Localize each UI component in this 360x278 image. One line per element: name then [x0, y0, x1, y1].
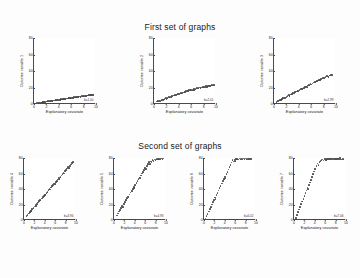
scatter-panel: Outcome variable 20204060800246810b=2.01… — [120, 38, 240, 130]
plot-area: 0204060800246810b=6.02Explanatory covari… — [203, 158, 255, 220]
y-axis-tick: 60 — [19, 172, 24, 176]
slope-annotation: b=6.02 — [244, 214, 254, 218]
data-point — [65, 169, 67, 171]
panel-group-first: Outcome variable 10204060800246810b=1.00… — [0, 38, 360, 130]
data-point — [125, 199, 127, 201]
plot-area: 0204060800246810b=2.99Explanatory covari… — [273, 38, 335, 104]
row-title-first: First set of graphs — [0, 22, 360, 32]
x-axis-tick: 4 — [134, 219, 136, 225]
data-point — [93, 94, 95, 96]
x-axis-tick: 2 — [123, 219, 125, 225]
y-axis-tick: 40 — [109, 187, 114, 191]
y-axis-tick: 40 — [19, 187, 24, 191]
data-point — [163, 158, 165, 160]
x-axis-tick: 2 — [213, 219, 215, 225]
x-axis-tick: 2 — [303, 219, 305, 225]
data-point — [151, 162, 153, 164]
data-point — [212, 201, 214, 203]
data-point — [307, 188, 309, 190]
x-axis-tick: 0 — [113, 219, 115, 225]
data-point — [224, 177, 226, 179]
x-axis-tick: 0 — [203, 219, 205, 225]
y-axis-label: Outcome variable 6 — [180, 158, 181, 159]
y-axis-label: Outcome variable 7 — [270, 158, 271, 159]
row-title-second: Second set of graphs — [0, 141, 360, 151]
data-point — [54, 183, 56, 185]
data-point — [30, 210, 32, 212]
x-axis-tick: 0 — [273, 103, 275, 109]
data-point — [209, 208, 211, 210]
data-point — [305, 192, 307, 194]
data-point — [130, 192, 132, 194]
x-axis-label: Explanatory covariate — [154, 109, 215, 114]
data-point — [140, 175, 142, 177]
x-axis-tick: 0 — [153, 103, 155, 109]
scatter-panel: Outcome variable 60204060800246810b=6.02… — [180, 158, 270, 246]
scatter-panel: Outcome variable 10204060800246810b=1.00… — [0, 38, 120, 130]
slope-annotation: b=3.94 — [64, 214, 74, 218]
data-point — [142, 171, 144, 173]
y-axis-tick: 80 — [19, 156, 24, 160]
x-axis-label: Explanatory covariate — [114, 225, 165, 230]
y-axis-tick: 80 — [149, 36, 154, 40]
data-point — [316, 165, 318, 167]
y-axis-tick: 60 — [199, 172, 204, 176]
x-axis-tick: 0 — [293, 219, 295, 225]
y-axis-tick: 40 — [199, 187, 204, 191]
data-point — [222, 180, 224, 182]
data-point — [303, 198, 305, 200]
data-point — [33, 207, 35, 209]
x-axis-tick: 2 — [285, 103, 287, 109]
data-point — [313, 171, 315, 173]
y-axis-tick: 20 — [109, 203, 114, 207]
x-axis-tick: 8 — [323, 103, 325, 109]
data-point — [59, 178, 61, 180]
data-point — [133, 187, 135, 189]
panel-group-second: Outcome variable 40204060800246810b=3.94… — [0, 158, 360, 246]
y-axis-tick: 60 — [149, 53, 154, 57]
data-point — [44, 194, 46, 196]
data-point — [226, 173, 228, 175]
slope-annotation: b=1.00 — [84, 98, 94, 102]
data-point — [311, 176, 313, 178]
y-axis-tick: 80 — [289, 156, 294, 160]
x-axis-tick: 4 — [178, 103, 180, 109]
x-axis-tick: 2 — [33, 219, 35, 225]
data-point — [139, 177, 141, 179]
data-point — [35, 205, 37, 207]
data-point — [123, 203, 125, 205]
data-point — [299, 206, 301, 208]
data-point — [230, 164, 232, 166]
y-axis-tick: 60 — [109, 172, 114, 176]
y-axis-tick: 20 — [149, 86, 154, 90]
y-axis-tick: 40 — [269, 69, 274, 73]
data-point — [137, 180, 139, 182]
data-point — [68, 167, 70, 169]
data-point — [60, 176, 62, 178]
data-point — [309, 182, 311, 184]
y-axis-label: Outcome variable 1 — [0, 38, 1, 39]
data-point — [122, 206, 124, 208]
y-axis-label: Outcome variable 4 — [0, 158, 1, 159]
x-axis-label: Explanatory covariate — [204, 225, 255, 230]
data-point — [27, 214, 29, 216]
data-point — [131, 190, 133, 192]
data-point — [220, 185, 222, 187]
data-point — [318, 164, 320, 166]
data-point — [129, 194, 131, 196]
plot-area: 0204060800246810b=1.00Explanatory covari… — [33, 38, 95, 104]
data-point — [304, 195, 306, 197]
data-point — [231, 162, 233, 164]
x-axis-tick: 6 — [234, 219, 236, 225]
scatter-panel: Outcome variable 40204060800246810b=3.94… — [0, 158, 90, 246]
data-point — [306, 86, 308, 88]
data-point — [63, 173, 65, 175]
data-point — [331, 74, 333, 76]
plot-area: 0204060800246810b=3.94Explanatory covari… — [23, 158, 75, 220]
data-point — [49, 189, 51, 191]
x-axis-tick: 10 — [214, 103, 218, 109]
data-point — [56, 180, 58, 182]
x-axis-tick: 0 — [23, 219, 25, 225]
data-point — [250, 158, 252, 160]
data-point — [116, 215, 118, 217]
